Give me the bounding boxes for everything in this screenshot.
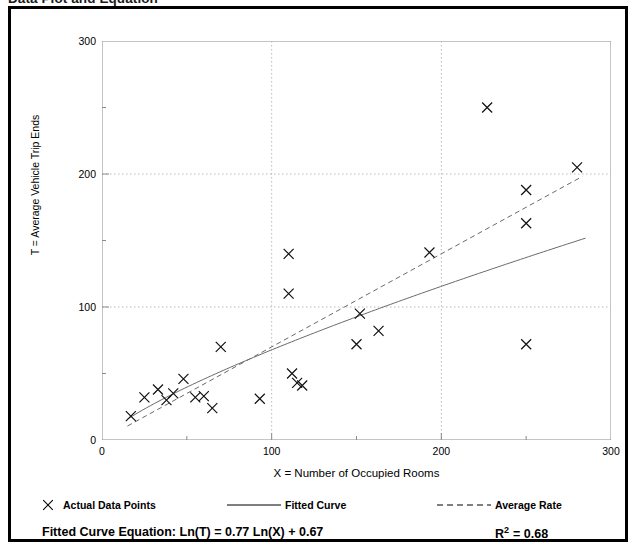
x-axis-title: X = Number of Occupied Rooms <box>102 467 611 479</box>
legend-label-actual-data-points: Actual Data Points <box>63 499 156 511</box>
data-point <box>521 339 531 349</box>
legend-item-actual-data-points: Actual Data Points <box>35 493 156 517</box>
data-point <box>297 380 307 390</box>
r-squared-number: = 0.68 <box>513 527 548 541</box>
x-axis-tick-labels: 0100200300 <box>102 445 611 461</box>
data-point <box>168 388 178 398</box>
data-point <box>521 218 531 228</box>
data-point <box>216 342 226 352</box>
legend-item-average-rate: Average Rate <box>435 493 562 517</box>
r-squared-exponent: 2 <box>504 525 509 535</box>
y-tick-label: 0 <box>90 434 96 446</box>
legend-label-fitted-curve: Fitted Curve <box>285 499 346 511</box>
y-axis-title: T = Average Vehicle Trip Ends <box>29 85 41 285</box>
data-point <box>139 392 149 402</box>
data-point <box>126 411 136 421</box>
data-point <box>207 403 217 413</box>
data-point <box>284 249 294 259</box>
x-tick-label: 100 <box>263 445 281 457</box>
y-tick-label: 300 <box>78 35 96 47</box>
data-point <box>572 162 582 172</box>
chart-legend: Actual Data Points Fitted Curve Average … <box>25 493 617 517</box>
r-squared-value: R2= 0.68 <box>495 525 548 541</box>
data-point <box>424 247 434 257</box>
data-point <box>178 374 188 384</box>
r-squared-symbol: R <box>495 527 504 541</box>
equation-row: Fitted Curve Equation: Ln(T) = 0.77 Ln(X… <box>25 523 617 549</box>
y-tick-label: 100 <box>78 301 96 313</box>
data-point <box>284 289 294 299</box>
data-point <box>374 326 384 336</box>
data-point <box>199 391 209 401</box>
x-tick-label: 300 <box>602 445 620 457</box>
data-point <box>521 185 531 195</box>
fitted-curve-equation: Fitted Curve Equation: Ln(T) = 0.77 Ln(X… <box>42 525 323 539</box>
data-point <box>482 103 492 113</box>
y-tick-label: 200 <box>78 168 96 180</box>
cross-marker-icon <box>35 495 61 515</box>
x-tick-label: 0 <box>99 445 105 457</box>
scatter-plot-svg <box>102 41 611 440</box>
dashed-line-icon <box>435 495 493 515</box>
figure-frame: 0100200300 T = Average Vehicle Trip Ends… <box>8 6 628 542</box>
x-tick-label: 200 <box>433 445 451 457</box>
solid-line-icon <box>225 495 283 515</box>
data-point <box>287 369 297 379</box>
y-axis-tick-labels: 0100200300 <box>58 41 96 440</box>
legend-item-fitted-curve: Fitted Curve <box>225 493 346 517</box>
data-point <box>352 339 362 349</box>
plot-area <box>102 41 611 440</box>
data-point <box>153 384 163 394</box>
legend-label-average-rate: Average Rate <box>495 499 562 511</box>
data-point <box>255 394 265 404</box>
data-point <box>355 309 365 319</box>
